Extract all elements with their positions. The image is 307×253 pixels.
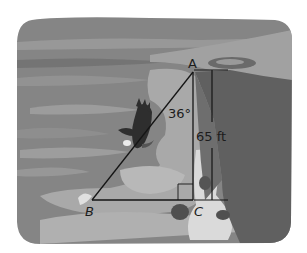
rock: [199, 176, 211, 190]
angle-label: 36°: [168, 106, 191, 121]
triangle-diagram: A B C 36° 65 ft: [0, 0, 307, 253]
rock: [171, 204, 189, 220]
rock: [216, 210, 230, 220]
vertex-label-a: A: [188, 56, 197, 71]
height-label: 65 ft: [196, 129, 226, 144]
scene-illustration: [0, 0, 307, 253]
vertex-label-c: C: [194, 204, 204, 219]
vertex-label-b: B: [85, 204, 94, 219]
